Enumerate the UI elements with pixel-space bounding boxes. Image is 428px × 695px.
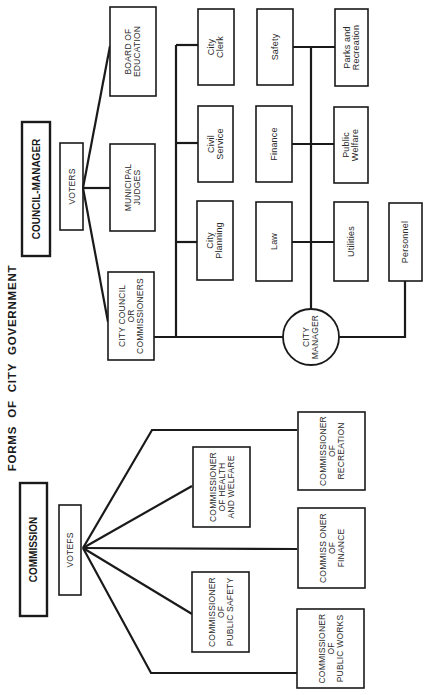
- cm-voters-label: VOTERS: [67, 168, 77, 204]
- commission-header: COMMISSION: [28, 517, 39, 583]
- svg-text:Recreation: Recreation: [351, 25, 361, 71]
- svg-text:Planning: Planning: [214, 222, 224, 259]
- diagram-title: FORMS OF CITY GOVERNMENT: [6, 265, 18, 472]
- svg-text:Clerk: Clerk: [215, 36, 225, 58]
- public-welfare-label: Public Welfare: [341, 129, 360, 161]
- svg-text:JUDGES: JUDGES: [132, 170, 142, 206]
- personnel-label: Personnel: [400, 221, 410, 263]
- svg-text:COMMISSIONERS: COMMISSIONERS: [135, 278, 145, 354]
- svg-text:Service: Service: [215, 128, 225, 159]
- svg-text:AND WELFARE: AND WELFARE: [226, 455, 236, 518]
- council-manager-header: COUNCIL-MANAGER: [31, 138, 42, 239]
- svg-text:Welfare: Welfare: [350, 129, 360, 161]
- city-government-diagram: FORMS OF CITY GOVERNMENT COUNCIL-MANAGER…: [0, 0, 428, 695]
- municipal-judges-label: MUNICIPAL JUDGES: [123, 164, 142, 212]
- parks-and-recreation-label: Parks and Recreation: [342, 25, 361, 71]
- svg-text:MANAGER: MANAGER: [310, 315, 320, 359]
- svg-text:EDUCATION: EDUCATION: [132, 26, 142, 77]
- council-manager-section: COUNCIL-MANAGER VOTERS BOARD OF EDUCATIO…: [22, 7, 422, 365]
- svg-text:PUBLIC SAFETY: PUBLIC SAFETY: [225, 578, 235, 647]
- commission-section: COMMISSION VOTEFS COMMISSIONER OF HEALTH…: [20, 412, 365, 688]
- svg-text:RECREATION: RECREATION: [336, 422, 346, 479]
- safety-label: Safety: [270, 33, 280, 60]
- utilities-label: Utilities: [346, 226, 356, 257]
- board-of-education-label: BOARD OF EDUCATION: [123, 26, 142, 77]
- law-label: Law: [269, 233, 279, 250]
- svg-text:PUBLIC WORKS: PUBLIC WORKS: [335, 615, 345, 683]
- finance-label: Finance: [269, 127, 279, 160]
- city-clerk-label: City Clerk: [206, 36, 225, 58]
- svg-text:FINANCE: FINANCE: [336, 529, 346, 568]
- commission-voters-label: VOTEFS: [65, 532, 75, 567]
